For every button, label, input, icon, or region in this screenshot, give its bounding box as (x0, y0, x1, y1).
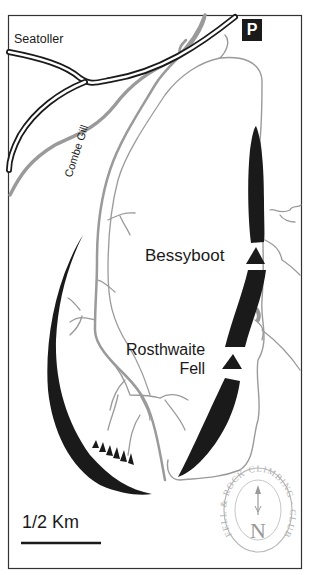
label-rosthwaite-line1: Rosthwaite (126, 340, 205, 359)
label-bessyboot: Bessyboot (145, 246, 224, 266)
label-rosthwaite-line2: Fell (126, 359, 205, 378)
bessyboot-summit-icon (246, 247, 265, 264)
label-rosthwaite-fell: Rosthwaite Fell (126, 340, 205, 378)
map-canvas: FELL & ROCK CLIMBING · CLUB · N (0, 0, 311, 575)
scale-label: 1/2 Km (22, 512, 79, 533)
parking-icon: P (242, 19, 262, 41)
label-seatoller: Seatoller (14, 32, 63, 46)
rosthwaite-summit-icon (222, 354, 242, 369)
svg-text:N: N (250, 518, 266, 543)
logo-text: FELL & ROCK CLIMBING · CLUB · (0, 0, 298, 540)
svg-text:FELL & ROCK CLIMBING · CLUB ·: FELL & ROCK CLIMBING · CLUB · (0, 0, 298, 540)
